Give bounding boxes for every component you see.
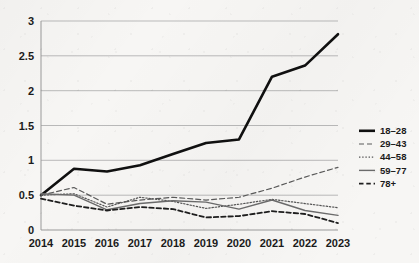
series-line-59-77 [41,194,338,216]
y-tick-label-0-5: 0.5 [19,189,34,201]
y-tick-label-1: 1 [28,154,34,166]
y-axis-tick-labels: 3 2.5 2 1.5 1 0.5 0 [19,15,34,236]
x-tick-label-2016: 2016 [95,237,119,249]
legend-label-18-28: 18–28 [380,125,406,136]
legend-label-59-77: 59–77 [380,165,406,176]
x-tick-label-2014: 2014 [29,237,54,249]
x-tick-label-2022: 2022 [293,237,317,249]
x-tick-label-2019: 2019 [194,237,218,249]
y-tick-label-1-5: 1.5 [19,120,34,132]
series-line-78+ [41,199,338,223]
legend-label-44-58: 44–58 [380,151,406,162]
x-tick-label-2023: 2023 [326,237,350,249]
y-tick-label-3: 3 [28,15,34,27]
x-axis-tick-labels: 2014201520162017201820192020202120222023 [29,237,350,249]
y-tick-label-2: 2 [28,85,34,97]
x-tick-label-2020: 2020 [227,237,251,249]
series-line-18-28 [41,34,338,195]
legend-label-78+: 78+ [380,178,397,189]
y-tick-label-2-5: 2.5 [19,50,34,62]
chart-svg: 3 2.5 2 1.5 1 0.5 0 20142015201620172018… [0,0,419,263]
x-tick-label-2015: 2015 [62,237,86,249]
line-chart-figure: 3 2.5 2 1.5 1 0.5 0 20142015201620172018… [0,0,419,263]
x-tick-label-2017: 2017 [128,237,152,249]
y-tick-label-0: 0 [28,224,34,236]
x-tick-label-2018: 2018 [161,237,185,249]
chart-legend: 18–2829–4344–5859–7778+ [359,125,406,189]
legend-label-29-43: 29–43 [380,138,406,149]
x-tick-label-2021: 2021 [260,237,284,249]
